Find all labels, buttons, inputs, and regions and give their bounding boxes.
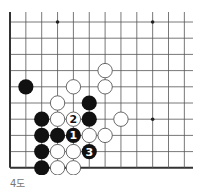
white-stone	[50, 96, 64, 110]
white-stone-move-2: 2	[66, 112, 80, 126]
black-stone	[34, 160, 49, 175]
white-stone	[50, 161, 64, 175]
white-stone	[66, 144, 80, 158]
star-point-icon	[151, 117, 155, 121]
black-stone	[34, 144, 49, 159]
white-stone	[82, 128, 96, 142]
star-point-icon	[56, 20, 60, 24]
black-stone	[82, 95, 97, 110]
white-stone	[66, 80, 80, 94]
go-board-diagram: 213	[0, 0, 200, 175]
white-stone	[66, 161, 80, 175]
star-point-icon	[151, 20, 155, 24]
white-stone	[114, 112, 128, 126]
black-stone	[50, 128, 65, 143]
black-stone	[34, 112, 49, 127]
white-stone	[98, 63, 112, 77]
black-stone	[18, 79, 33, 94]
move-number-label: 1	[70, 129, 78, 142]
move-number-label: 2	[70, 113, 78, 126]
white-stone	[50, 112, 64, 126]
diagram-caption: 4도	[10, 178, 25, 190]
black-stone-move-3: 3	[82, 144, 97, 159]
white-stone	[50, 144, 64, 158]
black-stone	[34, 128, 49, 143]
white-stone	[98, 128, 112, 142]
black-stone	[82, 112, 97, 127]
move-number-label: 3	[85, 146, 93, 159]
black-stone-move-1: 1	[66, 128, 81, 143]
white-stone	[98, 80, 112, 94]
